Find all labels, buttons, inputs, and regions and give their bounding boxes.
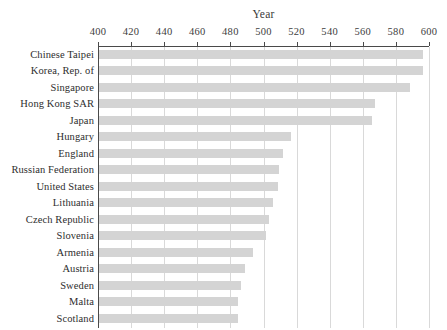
bar bbox=[99, 281, 241, 290]
bar bbox=[99, 99, 375, 108]
bar bbox=[99, 264, 245, 273]
bar bbox=[99, 297, 238, 306]
y-category-label: Russian Federation bbox=[0, 164, 94, 176]
bar bbox=[99, 83, 410, 92]
x-tick-mark bbox=[197, 42, 198, 46]
bar-series bbox=[98, 46, 429, 328]
y-category-label: Scotland bbox=[0, 313, 94, 325]
x-tick-mark bbox=[230, 42, 231, 46]
bar-row bbox=[98, 294, 429, 311]
x-tick-label: 600 bbox=[421, 26, 438, 37]
x-tick-label: 540 bbox=[321, 26, 338, 37]
x-tick-label: 500 bbox=[255, 26, 272, 37]
x-axis-title: Year bbox=[0, 8, 447, 20]
bar-row bbox=[98, 261, 429, 278]
x-tick-label: 560 bbox=[354, 26, 371, 37]
bar-row bbox=[98, 310, 429, 327]
bar-row bbox=[98, 228, 429, 245]
x-tick-mark bbox=[396, 42, 397, 46]
x-tick-label: 480 bbox=[222, 26, 239, 37]
bar bbox=[99, 132, 291, 141]
y-category-label: Singapore bbox=[0, 82, 94, 94]
x-tick-label: 400 bbox=[90, 26, 107, 37]
bar bbox=[99, 314, 238, 323]
y-axis-category-labels: Chinese TaipeiKorea, Rep. ofSingaporeHon… bbox=[0, 46, 94, 328]
bar-row bbox=[98, 277, 429, 294]
bar-row bbox=[98, 211, 429, 228]
y-category-label: Japan bbox=[0, 115, 94, 127]
clipped-header-artifact bbox=[0, 0, 447, 7]
y-category-label: United States bbox=[0, 181, 94, 193]
x-tick-label: 420 bbox=[123, 26, 140, 37]
x-tick-mark bbox=[429, 42, 430, 46]
bar bbox=[99, 231, 266, 240]
x-tick-mark bbox=[164, 42, 165, 46]
bar-row bbox=[98, 96, 429, 113]
x-tick-mark bbox=[131, 42, 132, 46]
plot-area bbox=[98, 46, 429, 328]
bar-row bbox=[98, 79, 429, 96]
y-category-label: Chinese Taipei bbox=[0, 49, 94, 61]
bar bbox=[99, 198, 273, 207]
x-tick-mark bbox=[98, 42, 99, 46]
y-category-label: Hungary bbox=[0, 131, 94, 143]
bar bbox=[99, 66, 423, 75]
x-axis-tick-labels: 400420440460480500520540560580600 bbox=[0, 26, 447, 42]
bar bbox=[99, 248, 253, 257]
bar bbox=[99, 215, 269, 224]
x-tick-mark bbox=[363, 42, 364, 46]
x-tick-mark bbox=[264, 42, 265, 46]
x-tick-mark bbox=[297, 42, 298, 46]
y-category-label: Lithuania bbox=[0, 197, 94, 209]
x-tick-label: 460 bbox=[189, 26, 206, 37]
bar-row bbox=[98, 112, 429, 129]
x-tick-label: 580 bbox=[388, 26, 405, 37]
y-category-label: Armenia bbox=[0, 247, 94, 259]
bar-row bbox=[98, 63, 429, 80]
y-category-label: England bbox=[0, 148, 94, 160]
bar-row bbox=[98, 46, 429, 63]
bar bbox=[99, 182, 278, 191]
y-category-label: Austria bbox=[0, 263, 94, 275]
bar-row bbox=[98, 195, 429, 212]
bar-row bbox=[98, 244, 429, 261]
y-category-label: Czech Republic bbox=[0, 214, 94, 226]
y-category-label: Sweden bbox=[0, 280, 94, 292]
bar bbox=[99, 165, 279, 174]
bar-row bbox=[98, 129, 429, 146]
bar-row bbox=[98, 145, 429, 162]
bar bbox=[99, 149, 283, 158]
y-category-label: Hong Kong SAR bbox=[0, 98, 94, 110]
bar bbox=[99, 116, 372, 125]
y-category-label: Malta bbox=[0, 296, 94, 308]
x-tick-mark bbox=[330, 42, 331, 46]
bar-row bbox=[98, 178, 429, 195]
y-category-label: Korea, Rep. of bbox=[0, 65, 94, 77]
gridline bbox=[429, 47, 430, 328]
bar bbox=[99, 50, 423, 59]
bar-chart: Year 400420440460480500520540560580600 C… bbox=[0, 0, 447, 330]
x-axis-title-text: Year bbox=[253, 8, 275, 20]
y-category-label: Slovenia bbox=[0, 230, 94, 242]
x-tick-label: 520 bbox=[288, 26, 305, 37]
bar-row bbox=[98, 162, 429, 179]
x-tick-label: 440 bbox=[156, 26, 173, 37]
